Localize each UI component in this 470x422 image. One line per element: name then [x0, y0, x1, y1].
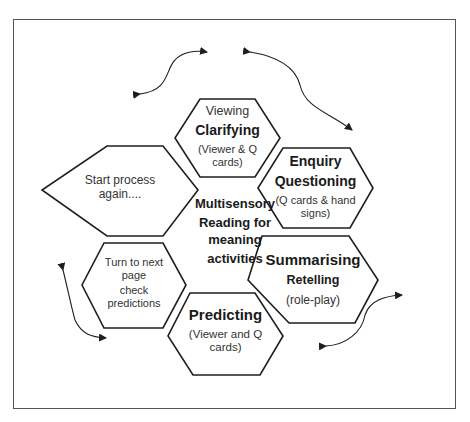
predicting-sub-2: cards)	[168, 341, 283, 354]
questioning-top-label: Enquiry	[258, 153, 373, 169]
center-title: Multisensory Reading for meaning activit…	[180, 195, 290, 269]
center-title-line-2: Reading for	[180, 214, 290, 233]
center-title-line-3: meaning	[180, 233, 290, 247]
hexagon-start-again-text: Start process again....	[42, 174, 198, 202]
summarising-mid-label: Retelling	[248, 273, 378, 287]
clarifying-top-label: Viewing	[175, 104, 280, 118]
turn-page-line-1: Turn to next	[82, 256, 186, 269]
turn-page-line-3: check	[82, 284, 186, 297]
turn-page-line-4: predictions	[82, 297, 186, 310]
center-title-line-1: Multisensory	[180, 195, 290, 214]
cycle-arrow-top-left	[140, 51, 207, 94]
start-again-line-2: again....	[42, 188, 198, 202]
hexagon-predicting-text: Predicting (Viewer and Q cards)	[168, 306, 283, 355]
questioning-title: Questioning	[258, 173, 373, 189]
hexagon-turn-page-text: Turn to next page check predictions	[82, 256, 186, 310]
predicting-sub-1: (Viewer and Q	[168, 328, 283, 341]
center-title-line-4: activities	[180, 250, 290, 269]
turn-page-line-2: page	[82, 269, 186, 282]
start-again-line-1: Start process	[42, 174, 198, 188]
clarifying-title: Clarifying	[175, 122, 280, 138]
